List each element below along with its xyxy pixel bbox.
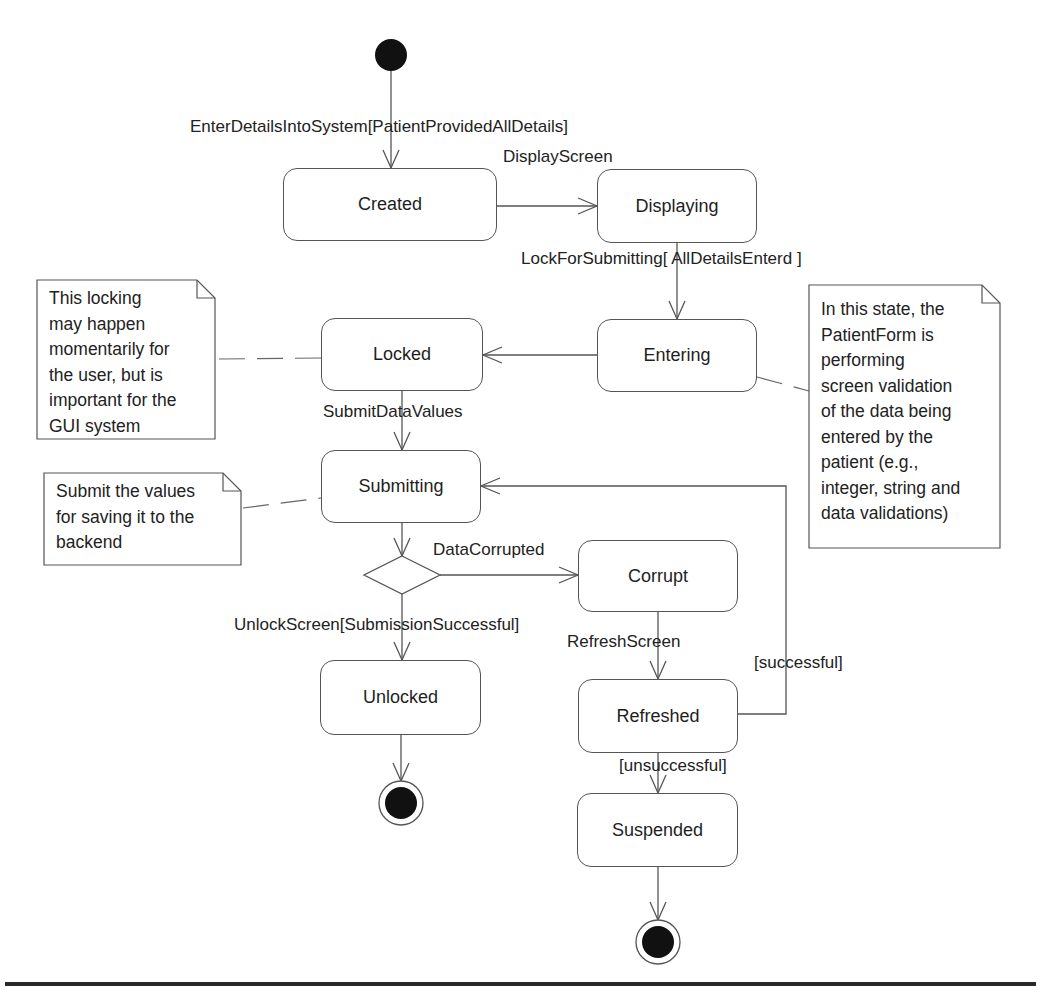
state-created: Created	[283, 168, 497, 241]
decision-diamond	[364, 556, 440, 594]
state-label: Submitting	[358, 476, 443, 497]
state-label: Locked	[373, 344, 431, 365]
note-anchor-submitting	[243, 498, 321, 508]
final-node-icon	[636, 920, 680, 964]
transition-label: SubmitDataValues	[323, 403, 463, 420]
transition-label: UnlockScreen[SubmissionSuccessful]	[234, 616, 519, 633]
caption-divider	[5, 982, 1036, 986]
state-unlocked: Unlocked	[320, 660, 481, 735]
final-node-icon	[379, 781, 423, 825]
transition-label: [unsuccessful]	[619, 757, 727, 774]
state-locked: Locked	[321, 318, 483, 391]
state-submitting: Submitting	[321, 450, 481, 523]
state-refreshed: Refreshed	[578, 679, 738, 753]
initial-node-icon	[375, 39, 407, 71]
state-label: Suspended	[612, 820, 703, 841]
transition-label: [successful]	[754, 654, 843, 671]
note-entering: In this state, the PatientForm is perfor…	[809, 285, 1000, 548]
state-label: Entering	[643, 345, 710, 366]
note-locking: This locking may happen momentarily for …	[37, 280, 215, 439]
state-label: Corrupt	[628, 566, 688, 587]
note-submit: Submit the values for saving it to the b…	[44, 473, 241, 565]
state-corrupt: Corrupt	[578, 540, 738, 612]
note-anchor-entering	[757, 377, 809, 391]
transition-label: DisplayScreen	[503, 148, 613, 165]
transition-label: RefreshScreen	[567, 633, 680, 650]
transition-label: EnterDetailsIntoSystem[PatientProvidedAl…	[190, 118, 568, 135]
state-entering: Entering	[597, 319, 757, 392]
transition-label: LockForSubmitting[ AllDetailsEnterd ]	[521, 250, 802, 267]
state-label: Displaying	[635, 196, 718, 217]
state-label: Unlocked	[363, 687, 438, 708]
state-suspended: Suspended	[577, 793, 738, 867]
transition-label: DataCorrupted	[433, 541, 545, 558]
state-label: Refreshed	[616, 706, 699, 727]
state-label: Created	[358, 194, 422, 215]
state-displaying: Displaying	[597, 169, 757, 243]
note-anchor-locked	[219, 358, 321, 359]
